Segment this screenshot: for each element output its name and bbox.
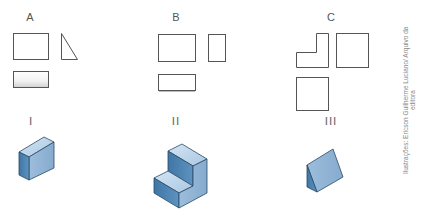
illustration-credits: Ilustrações: Ericson Guilherme Luciano/ … [402, 20, 422, 180]
solid-iii-triangular-prism [307, 149, 343, 192]
view-c-top-square [297, 78, 329, 111]
view-a-top-rectangle [14, 72, 49, 88]
view-a-front-rectangle [14, 34, 49, 60]
solid-i-label: I [29, 116, 33, 127]
view-c-side-square [337, 34, 369, 68]
view-set-b [159, 35, 226, 92]
solid-i-side-face [19, 152, 29, 180]
solid-ii-stepped-block [154, 144, 207, 208]
view-c-front-l-shape [297, 34, 329, 68]
solid-iii-label: III [325, 116, 338, 127]
view-b-side-rectangle [209, 35, 226, 62]
solid-ii-label: II [172, 116, 181, 127]
solid-i-block [19, 137, 54, 180]
view-b-front-rectangle [159, 35, 196, 62]
view-set-c [297, 34, 369, 111]
view-set-a [14, 34, 78, 88]
view-a-side-triangle [62, 34, 78, 60]
view-b-top-rectangle [159, 75, 196, 91]
figure-canvas [0, 0, 423, 210]
